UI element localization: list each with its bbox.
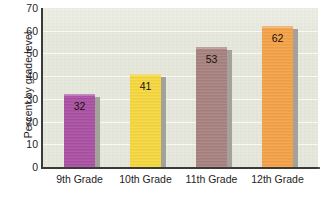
y-axis-tick-labels: 70 60 50 40 30 20 10 0 xyxy=(16,0,38,202)
x-axis-tick-labels: 9th Grade 10th Grade 11th Grade 12th Gra… xyxy=(42,173,318,191)
x-tick-label-9th-grade: 9th Grade xyxy=(56,173,103,185)
bar-group-10th-grade: 41 xyxy=(130,74,161,167)
bar-12th-grade[interactable] xyxy=(262,26,293,167)
x-tick-label-11th-grade: 11th Grade xyxy=(186,173,238,185)
y-tick-label: 50 xyxy=(16,47,38,59)
bar-group-11th-grade: 53 xyxy=(196,47,227,167)
x-tick-label-12th-grade: 12th Grade xyxy=(251,173,304,185)
y-tick-label: 10 xyxy=(16,138,38,150)
y-tick-label: 30 xyxy=(16,93,38,105)
bar-11th-grade[interactable] xyxy=(196,47,227,167)
bar-group-12th-grade: 62 xyxy=(262,26,293,167)
y-tick-label: 70 xyxy=(16,2,38,14)
y-tick-label: 40 xyxy=(16,70,38,82)
x-tick-label-10th-grade: 10th Grade xyxy=(119,173,172,185)
bars-layer: 32 41 53 62 xyxy=(42,8,318,167)
x-axis-line xyxy=(41,167,320,169)
bar-9th-grade[interactable] xyxy=(64,94,95,167)
bar-10th-grade[interactable] xyxy=(130,74,161,167)
y-tick-label: 0 xyxy=(16,161,38,173)
bar-group-9th-grade: 32 xyxy=(64,94,95,167)
bar-chart: Percent by grade level 70 60 50 40 30 20… xyxy=(0,0,330,202)
y-tick-label: 20 xyxy=(16,116,38,128)
y-tick-label: 60 xyxy=(16,25,38,37)
